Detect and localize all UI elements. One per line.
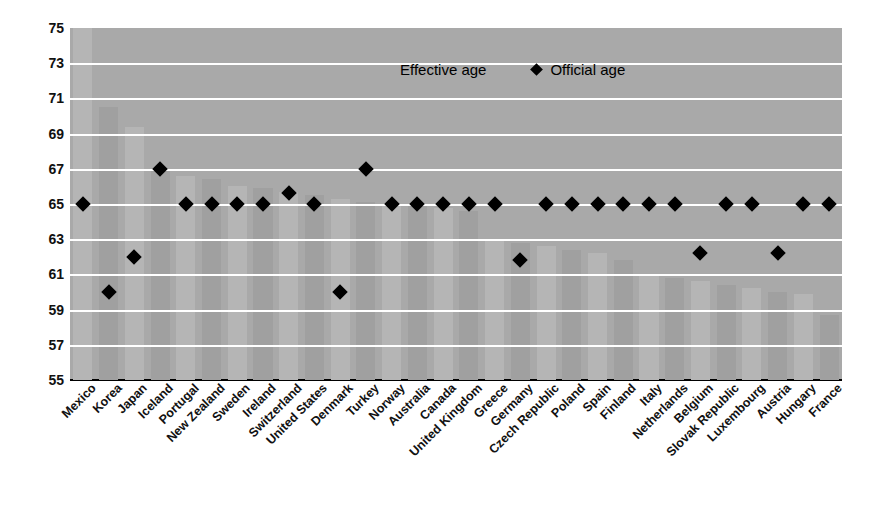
bar — [691, 281, 710, 380]
bar — [820, 315, 839, 380]
y-axis-tick: 57 — [6, 337, 64, 353]
x-axis-tick-label: Mexico — [59, 381, 99, 421]
y-axis-tick: 75 — [6, 20, 64, 36]
gridline — [70, 310, 842, 312]
data-point-marker — [641, 196, 657, 212]
legend-entry-effective-age: Effective age — [400, 61, 486, 78]
data-point-marker — [564, 196, 580, 212]
plot-area: Effective age Official age — [70, 28, 842, 380]
data-point-marker — [796, 196, 812, 212]
bar — [228, 186, 247, 380]
data-point-marker — [770, 245, 786, 261]
legend-label-official-age: Official age — [550, 61, 625, 78]
data-point-marker — [718, 196, 734, 212]
bar — [717, 285, 736, 380]
data-point-marker — [461, 196, 477, 212]
y-axis-tick: 69 — [6, 126, 64, 142]
bar — [434, 208, 453, 380]
legend-entry-official-age: Official age — [532, 61, 625, 78]
bar — [794, 294, 813, 380]
data-point-marker — [744, 196, 760, 212]
bar — [305, 195, 324, 380]
bar — [408, 206, 427, 380]
x-axis-labels: MexicoKoreaJapanIcelandPortugalNew Zeala… — [0, 381, 888, 521]
data-point-marker — [821, 196, 837, 212]
bar — [768, 292, 787, 380]
gridline — [70, 134, 842, 136]
data-point-marker — [667, 196, 683, 212]
y-axis-tick: 65 — [6, 196, 64, 212]
legend-label-effective-age: Effective age — [400, 61, 486, 78]
gridline — [70, 239, 842, 241]
bar — [614, 260, 633, 380]
data-point-marker — [538, 196, 554, 212]
y-axis-tick: 59 — [6, 302, 64, 318]
bar — [459, 211, 478, 380]
bar — [356, 202, 375, 380]
y-axis-tick: 71 — [6, 90, 64, 106]
y-axis-tick: 61 — [6, 266, 64, 282]
data-point-marker — [693, 245, 709, 261]
bar — [665, 278, 684, 380]
y-axis-tick: 63 — [6, 231, 64, 247]
chart-legend: Effective age Official age — [400, 58, 625, 80]
data-point-marker — [615, 196, 631, 212]
y-axis-tick: 67 — [6, 161, 64, 177]
bar — [562, 250, 581, 380]
bar — [253, 188, 272, 380]
bar — [279, 192, 298, 380]
chart-container: 7573716967656361595755 Effective age Off… — [0, 0, 888, 530]
y-axis-tick: 73 — [6, 55, 64, 71]
bar — [382, 204, 401, 380]
bar — [588, 253, 607, 380]
data-point-marker — [358, 161, 374, 177]
gridline — [70, 345, 842, 347]
bar — [742, 288, 761, 380]
gridline — [70, 98, 842, 100]
data-point-marker — [487, 196, 503, 212]
data-point-marker — [590, 196, 606, 212]
bar — [99, 107, 118, 380]
diamond-icon — [531, 63, 544, 76]
gridline — [70, 274, 842, 276]
gridline — [70, 169, 842, 171]
bar — [639, 274, 658, 380]
bar — [537, 246, 556, 380]
